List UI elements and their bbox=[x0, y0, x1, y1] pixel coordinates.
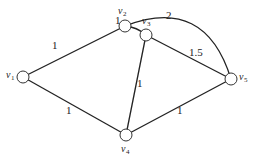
weight-v3-v4: 1 bbox=[137, 77, 143, 89]
svg-text:5: 5 bbox=[244, 76, 248, 84]
edge-v1-v4 bbox=[23, 77, 126, 135]
label-v4: v 4 bbox=[121, 143, 130, 156]
node-v3 bbox=[140, 29, 152, 41]
node-v5 bbox=[225, 73, 237, 85]
label-v5: v 5 bbox=[239, 71, 248, 84]
label-v3: v 3 bbox=[142, 15, 151, 28]
weight-v1-v2: 1 bbox=[52, 39, 58, 51]
weight-v2-v5: 2 bbox=[166, 9, 172, 21]
weighted-graph-diagram: 1 1 2 1.5 1 1 1 v 1 v 2 v 3 v 4 v 5 bbox=[0, 0, 257, 156]
weight-v3-v5: 1.5 bbox=[189, 46, 203, 58]
node-v4 bbox=[120, 129, 132, 141]
node-v2 bbox=[119, 20, 131, 32]
node-v1 bbox=[17, 71, 29, 83]
weight-v4-v5: 1 bbox=[177, 104, 183, 116]
weight-v1-v4: 1 bbox=[66, 104, 72, 116]
edge-v2-v5 bbox=[125, 18, 231, 79]
label-v1: v 1 bbox=[6, 69, 15, 82]
svg-text:1: 1 bbox=[11, 74, 15, 82]
svg-text:4: 4 bbox=[126, 148, 130, 156]
edge-v3-v4 bbox=[126, 35, 146, 135]
svg-text:3: 3 bbox=[147, 20, 151, 28]
svg-text:2: 2 bbox=[123, 10, 127, 18]
edge-v1-v2 bbox=[23, 26, 125, 77]
